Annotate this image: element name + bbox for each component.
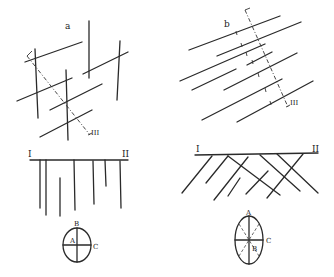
panel-b-axis-label: III [290,99,299,107]
ellipse-left-label-top: B [74,220,79,228]
ellipse-right-label-top: A [245,209,252,217]
ellipse-right-label-right: C [266,237,271,245]
ellipse-right-label-center: B [252,245,257,253]
panel-c [30,160,128,216]
panel-b-label: b [224,19,230,29]
ellipse-left [63,228,91,262]
panel-a-axis-label: III [91,129,100,137]
panel-c-start-label: I [28,149,32,159]
panel-a [17,21,128,140]
panel-d-start-label: I [196,144,200,154]
panel-a-label: a [65,21,71,31]
panel-c-end-label: II [122,149,130,159]
ellipse-right [235,216,263,264]
ellipse-left-label-center: A [69,237,76,245]
ellipse-left-label-right: C [93,243,98,251]
panel-d [182,153,318,200]
panel-d-end-label: II [312,144,320,154]
diagram-canvas: a III b III I II [0,0,334,277]
